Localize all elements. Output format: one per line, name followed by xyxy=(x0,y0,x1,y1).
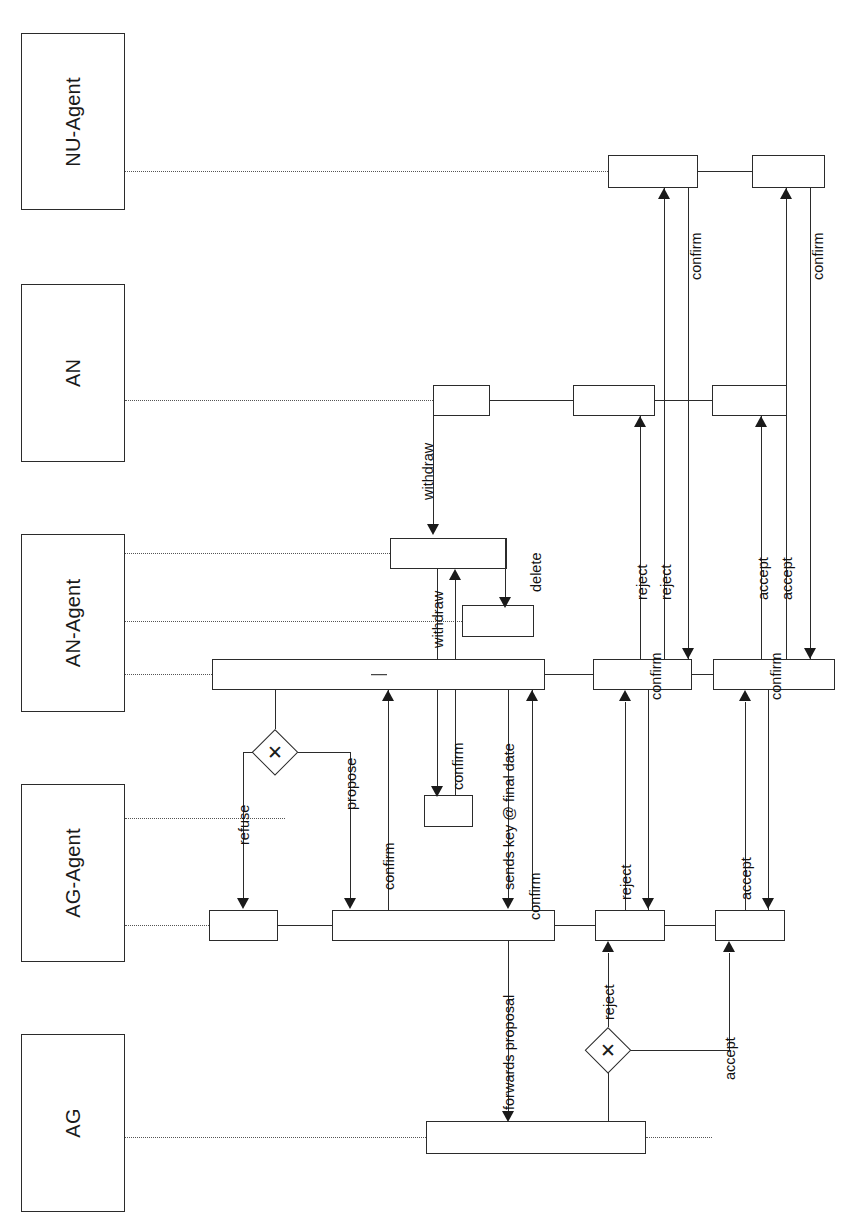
arrowhead-accept-ana-to-an xyxy=(755,416,767,427)
edge-label-delete: delete xyxy=(528,552,544,592)
edge-label-reject-gateway: reject xyxy=(601,985,617,1020)
arrowhead-confirm-reject-back xyxy=(642,898,654,909)
connector-ana-reject-accept xyxy=(692,674,713,675)
arrowhead-reject-aga-to-ana xyxy=(619,690,631,701)
task-an-agent-reject[interactable] xyxy=(593,659,692,690)
task-an-agent-withdraw[interactable] xyxy=(390,538,507,569)
lane-header-an-agent[interactable]: AN-Agent xyxy=(21,534,125,712)
edge-label-forwards-proposal: forwards proposal xyxy=(501,995,517,1110)
edge-label-propose: propose xyxy=(343,758,359,810)
gateway-accept-reject[interactable]: ✕ xyxy=(585,1027,631,1073)
lane-trailer-ag xyxy=(646,1137,712,1138)
edge-label-reject-aga: reject xyxy=(618,865,634,900)
lane-leader-an-agent-2 xyxy=(125,621,462,622)
gateway-x-icon: ✕ xyxy=(267,743,283,762)
arrowhead-confirm-down-to-box xyxy=(431,786,443,797)
lane-header-ag[interactable]: AG xyxy=(21,1034,125,1212)
edge-label-confirm-reject-nu: confirm xyxy=(688,232,704,280)
arrowhead-confirm-accept-back xyxy=(762,898,774,909)
arrowhead-gateway-accept xyxy=(723,941,735,952)
task-ag-agent-reject[interactable] xyxy=(595,910,665,941)
task-ag-agent-main[interactable] xyxy=(332,910,555,941)
diagram-canvas: NU-Agent AN AN-Agent AG-Agent AG xyxy=(0,0,866,1218)
lane-label-an: AN xyxy=(62,359,85,387)
edge-label-sends-key: sends key @ final date xyxy=(501,743,517,890)
task-an-withdraw[interactable] xyxy=(433,385,490,416)
gateway-propose-refuse[interactable]: ✕ xyxy=(252,729,298,775)
edge-label-accept-an-nu: accept xyxy=(779,557,795,600)
lane-label-ag: AG xyxy=(62,1108,85,1137)
edge-label-confirm-propose: confirm xyxy=(381,842,397,890)
arrowhead-withdraw-an-to-agent xyxy=(427,524,439,535)
edge-label-confirm-accept-back: confirm xyxy=(768,652,784,700)
lane-label-ag-agent: AG-Agent xyxy=(62,828,85,917)
task-nu-agent-accept[interactable] xyxy=(752,155,825,188)
flow-reject-ana-to-an xyxy=(640,416,641,659)
connector-aga-refuse-main xyxy=(278,925,332,926)
lane-leader-ag-agent-1 xyxy=(125,818,285,819)
flow-withdraw-to-delete-h xyxy=(498,538,506,539)
arrowhead-withdraw-internal-up xyxy=(449,569,461,580)
flow-withdraw-internal-up xyxy=(455,580,456,659)
flow-confirm-down-to-box xyxy=(437,690,438,786)
flow-withdraw-to-delete-v xyxy=(505,538,506,598)
edge-label-reject-an-nu: reject xyxy=(658,565,674,600)
task-ag-proposal[interactable] xyxy=(426,1121,646,1154)
arrowhead-reject-an-to-nu xyxy=(658,188,670,199)
task-nu-agent-reject[interactable] xyxy=(608,155,698,188)
arrowhead-reject-ana-to-an xyxy=(634,416,646,427)
flow-ag-task-to-gateway xyxy=(608,1073,609,1121)
arrowhead-forwards-proposal xyxy=(502,1111,514,1122)
edge-label-reject-ana: reject xyxy=(634,565,650,600)
arrowhead-gateway-reject xyxy=(602,941,614,952)
edge-label-confirm-final: confirm xyxy=(450,742,466,790)
lane-leader-ag-agent-2 xyxy=(125,925,209,926)
lane-header-an[interactable]: AN xyxy=(21,284,125,462)
arrowhead-confirm-propose xyxy=(382,690,394,701)
lane-label-an-agent: AN-Agent xyxy=(62,579,85,667)
arrowhead-refuse xyxy=(237,898,249,909)
task-ag-agent-refuse[interactable] xyxy=(209,910,278,941)
task-ag-agent-accept[interactable] xyxy=(715,910,785,941)
connector-nu-tasks xyxy=(698,171,752,172)
flow-confirm-accept-back xyxy=(768,690,769,910)
flow-confirm-reject-back xyxy=(648,690,649,910)
connector-aga-reject-accept xyxy=(665,925,715,926)
flow-gateway-propose-h xyxy=(298,752,350,753)
edge-label-refuse: refuse xyxy=(236,805,252,845)
task-main-dash-marker xyxy=(371,674,387,676)
flow-gateway-accept-h xyxy=(631,1050,729,1051)
task-an-agent-delete[interactable] xyxy=(462,605,534,637)
arrowhead-delete xyxy=(499,597,511,608)
edge-label-accept-gateway: accept xyxy=(722,1037,738,1080)
task-an-reject[interactable] xyxy=(573,385,655,416)
task-ag-agent-confirm[interactable] xyxy=(424,795,473,827)
gateway-x-icon: ✕ xyxy=(600,1041,616,1060)
lane-leader-an-agent-1 xyxy=(125,553,390,554)
edge-label-confirm-reject-back: confirm xyxy=(648,652,664,700)
edge-label-confirm-accept-nu: confirm xyxy=(810,232,826,280)
flow-main-to-gateway xyxy=(275,690,276,729)
arrowhead-confirm-key xyxy=(526,690,538,701)
edge-label-withdraw-internal: withdraw xyxy=(430,591,446,648)
lane-header-ag-agent[interactable]: AG-Agent xyxy=(21,784,125,962)
arrowhead-sends-key xyxy=(502,898,514,909)
task-an-accept[interactable] xyxy=(712,385,787,416)
connector-aga-main-reject xyxy=(555,925,595,926)
connector-an-1-2 xyxy=(490,400,573,401)
edge-label-accept-aga: accept xyxy=(738,857,754,900)
arrowhead-accept-aga-to-ana xyxy=(739,690,751,701)
lane-leader-an-agent-3 xyxy=(125,674,212,675)
flow-accept-ana-to-an xyxy=(761,416,762,659)
task-an-agent-main[interactable] xyxy=(212,659,545,690)
edge-label-confirm-key: confirm xyxy=(527,872,543,920)
arrowhead-confirm-reject-nu xyxy=(682,648,694,659)
lane-leader-ag xyxy=(125,1137,426,1138)
lane-leader-an xyxy=(125,400,433,401)
edge-label-withdraw-an: withdraw xyxy=(420,443,436,500)
lane-header-nu-agent[interactable]: NU-Agent xyxy=(21,33,125,210)
flow-gateway-refuse-h xyxy=(243,752,253,753)
lane-label-nu-agent: NU-Agent xyxy=(62,77,85,166)
connector-ana-main-reject xyxy=(545,674,593,675)
arrowhead-propose xyxy=(344,898,356,909)
